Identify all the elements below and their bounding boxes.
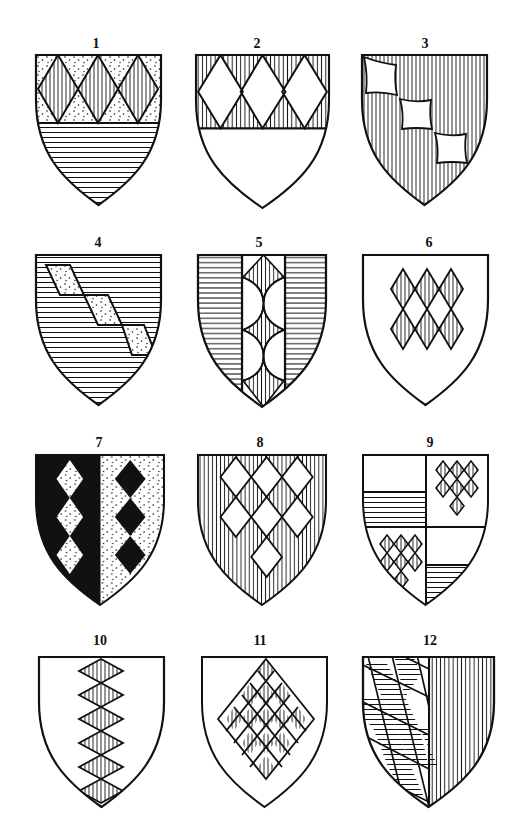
shield-11: [202, 657, 327, 807]
shield-12: [363, 657, 494, 807]
shield-3: [362, 55, 487, 205]
shield-9: [363, 455, 488, 605]
shield-7: [36, 455, 164, 605]
shield-number-6: 6: [426, 235, 433, 250]
shield-number-7: 7: [96, 435, 103, 450]
heraldry-plate: 1 2 3 4 5 6 7 8 9 10 11 12: [0, 0, 527, 838]
shield-number-9: 9: [427, 435, 434, 450]
shield-number-12: 12: [423, 633, 437, 648]
shield-number-4: 4: [95, 235, 102, 250]
shield-8: [198, 455, 326, 605]
shield-10: [39, 657, 164, 807]
shield-6: [363, 255, 488, 405]
shield-1: [36, 55, 161, 213]
shield-number-3: 3: [422, 36, 429, 51]
shield-2: [196, 55, 329, 208]
shields-illustration: 1 2 3 4 5 6 7 8 9 10 11 12: [0, 0, 527, 838]
shield-number-8: 8: [257, 435, 264, 450]
shield-number-5: 5: [256, 235, 263, 250]
shield-number-1: 1: [93, 36, 100, 51]
shield-number-2: 2: [254, 36, 261, 51]
shield-number-11: 11: [253, 633, 266, 648]
shield-4: [36, 255, 161, 405]
shield-5: [198, 255, 326, 407]
shield-number-10: 10: [93, 633, 107, 648]
